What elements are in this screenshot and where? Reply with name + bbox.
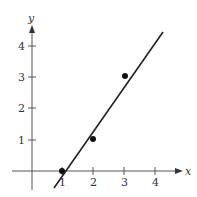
x-tick-label: 4 — [152, 176, 159, 189]
data-point — [59, 168, 65, 174]
y-axis-arrow-icon — [29, 25, 35, 33]
scatter-plot: 1 2 3 4 1 2 3 4 x y — [0, 0, 197, 197]
data-point — [90, 136, 96, 142]
regression-line — [54, 32, 163, 188]
y-tick-label: 4 — [18, 40, 25, 53]
data-point — [122, 73, 128, 79]
x-axis-label: x — [185, 165, 192, 178]
y-tick-label: 3 — [18, 71, 25, 84]
x-tick-label: 3 — [121, 176, 128, 189]
y-tick-label: 1 — [18, 134, 25, 147]
x-axis-arrow-icon — [175, 168, 183, 174]
y-tick-label: 2 — [18, 102, 25, 115]
x-tick-label: 2 — [90, 176, 97, 189]
y-axis-label: y — [27, 12, 35, 25]
